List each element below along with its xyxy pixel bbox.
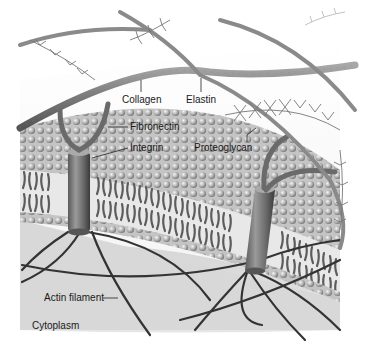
label-proteoglycan: Proteoglycan [194, 142, 252, 154]
ecm-membrane-figure: Collagen Elastin Fibronectin Integrin Pr… [0, 0, 382, 360]
label-cytoplasm: Cytoplasm [32, 320, 79, 332]
label-elastin: Elastin [186, 94, 216, 106]
label-integrin: Integrin [130, 142, 163, 154]
label-fibronectin: Fibronectin [130, 121, 179, 133]
label-actin-filament: Actin filament [44, 292, 104, 304]
integrin-1 [68, 148, 90, 236]
diagram-illustration [0, 0, 382, 360]
label-collagen: Collagen [122, 94, 161, 106]
